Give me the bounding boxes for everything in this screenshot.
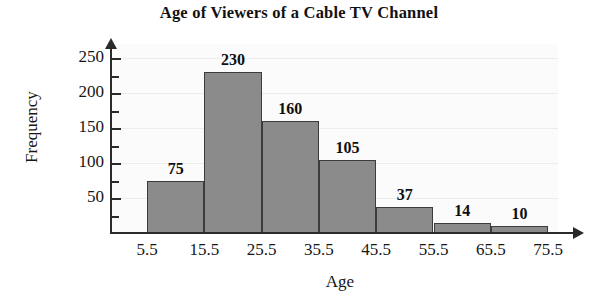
x-axis-tick-label: 15.5	[179, 240, 229, 260]
y-axis-tick-label: 250	[62, 47, 104, 67]
histogram-bar	[262, 121, 319, 233]
y-axis-minor-tick	[112, 111, 119, 113]
x-axis-title: Age	[0, 272, 598, 292]
x-axis-tick-label: 65.5	[466, 240, 516, 260]
y-axis-tick	[112, 198, 121, 200]
x-axis-line	[110, 232, 574, 234]
y-axis-tick	[112, 93, 121, 95]
histogram-figure: Age of Viewers of a Cable TV Channel 752…	[0, 0, 598, 306]
gridline	[111, 58, 558, 59]
bar-value-label: 75	[147, 160, 204, 178]
y-axis-title: Frequency	[22, 67, 42, 187]
y-axis-tick	[112, 163, 121, 165]
x-axis-tick-label: 55.5	[409, 240, 459, 260]
y-axis-tick	[112, 58, 121, 60]
x-axis-tick-label: 75.5	[523, 240, 573, 260]
bar-value-label: 105	[319, 139, 376, 157]
x-axis-tick-label: 45.5	[351, 240, 401, 260]
histogram-bar	[319, 160, 376, 234]
y-axis-tick-label: 150	[62, 117, 104, 137]
bar-value-label: 230	[204, 51, 261, 69]
bar-value-label: 14	[434, 202, 491, 220]
y-axis-tick-label: 100	[62, 152, 104, 172]
y-axis-minor-tick	[112, 76, 119, 78]
histogram-bar	[147, 181, 204, 234]
y-axis-minor-tick	[112, 216, 119, 218]
x-axis-arrow-icon	[573, 227, 584, 239]
x-axis-tick-label: 35.5	[294, 240, 344, 260]
y-axis-tick	[112, 128, 121, 130]
histogram-bar	[376, 207, 433, 233]
bar-value-label: 160	[262, 100, 319, 118]
x-axis-title-text: Age	[326, 272, 354, 291]
gridline	[111, 128, 558, 129]
plot-area: 75230160105371410	[111, 44, 558, 233]
bar-value-label: 10	[491, 205, 548, 223]
y-axis-tick-label: 200	[62, 82, 104, 102]
x-axis-tick-label: 5.5	[122, 240, 172, 260]
y-axis-tick-label: 50	[62, 187, 104, 207]
y-axis-minor-tick	[112, 146, 119, 148]
y-axis-minor-tick	[112, 181, 119, 183]
y-axis-arrow-icon	[105, 38, 117, 49]
histogram-bar	[204, 72, 261, 233]
y-axis-tick-labels: 50100150200250	[58, 0, 104, 306]
x-axis-tick-label: 25.5	[237, 240, 287, 260]
bar-value-label: 37	[376, 186, 433, 204]
gridline	[111, 93, 558, 94]
